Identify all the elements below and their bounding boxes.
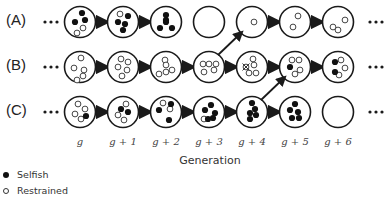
generation-label-g4: g + 4 xyxy=(238,136,266,147)
restrained-individual-icon xyxy=(246,70,252,76)
restrained-individual-icon xyxy=(121,117,127,123)
ellipsis-dot-icon xyxy=(368,65,371,68)
diagram-canvas: (A) (B) (C) g g + 1 g + 2 g + 3 g + 4 g … xyxy=(0,0,392,201)
axis-title: Generation xyxy=(179,154,240,167)
selfish-individual-icon xyxy=(287,107,293,113)
selfish-individual-icon xyxy=(72,19,78,25)
selfish-individual-icon xyxy=(83,113,89,119)
restrained-individual-icon xyxy=(201,69,207,75)
restrained-individual-icon xyxy=(78,55,84,61)
restrained-individual-icon xyxy=(251,19,257,25)
restrained-individual-icon xyxy=(292,71,298,77)
ellipsis-dot-icon xyxy=(374,65,377,68)
population-circle xyxy=(194,97,225,128)
restrained-individual-icon xyxy=(213,61,219,67)
selfish-individual-icon xyxy=(122,21,128,27)
generation-label-g: g xyxy=(77,136,83,147)
generation-label-g6: g + 6 xyxy=(324,136,352,147)
selfish-individual-icon xyxy=(332,59,338,65)
ellipsis-dot-icon xyxy=(374,20,377,23)
selfish-individual-icon xyxy=(118,106,124,112)
restrained-individual-icon xyxy=(115,112,121,118)
selfish-individual-icon xyxy=(168,101,174,107)
restrained-individual-icon xyxy=(71,65,77,71)
restrained-individual-icon xyxy=(295,13,301,19)
restrained-individual-icon xyxy=(125,59,131,65)
ellipsis-dot-icon xyxy=(380,110,383,113)
restrained-individual-icon xyxy=(80,25,86,31)
restrained-individual-icon xyxy=(117,11,123,17)
selfish-individual-icon xyxy=(163,17,169,23)
generation-label-g5: g + 5 xyxy=(281,136,309,147)
restrained-individual-icon xyxy=(211,67,217,73)
selfish-individual-icon xyxy=(332,69,338,75)
ellipsis-dot-icon xyxy=(55,20,58,23)
population-diagram xyxy=(0,0,392,201)
population-circle xyxy=(280,7,311,38)
restrained-individual-icon xyxy=(78,116,84,122)
restrained-individual-icon xyxy=(167,106,173,112)
ellipsis-dot-icon xyxy=(49,110,52,113)
restrained-individual-icon xyxy=(75,101,81,107)
legend-item-restrained: Restrained xyxy=(3,185,68,196)
restrained-individual-icon xyxy=(289,57,295,63)
restrained-individual-icon xyxy=(342,65,348,71)
selfish-individual-icon xyxy=(287,64,293,70)
selfish-individual-icon xyxy=(208,102,214,108)
selfish-individual-icon xyxy=(169,25,175,31)
selfish-dot-icon xyxy=(3,172,9,178)
legend-item-selfish: Selfish xyxy=(3,169,48,180)
restrained-individual-icon xyxy=(81,67,87,73)
restrained-individual-icon xyxy=(115,64,121,70)
generation-label-g3: g + 3 xyxy=(195,136,223,147)
selfish-individual-icon xyxy=(202,107,208,113)
restrained-individual-icon xyxy=(156,71,162,77)
ellipsis-dot-icon xyxy=(43,20,46,23)
ellipsis-dot-icon xyxy=(55,65,58,68)
population-circle xyxy=(323,97,354,128)
ellipsis-dot-icon xyxy=(55,110,58,113)
restrained-individual-icon xyxy=(123,101,129,107)
selfish-individual-icon xyxy=(247,110,253,116)
generation-label-g2: g + 2 xyxy=(152,136,180,147)
population-circle xyxy=(151,97,182,128)
restrained-individual-icon xyxy=(169,67,175,73)
restrained-individual-icon xyxy=(118,56,124,62)
ellipsis-dot-icon xyxy=(43,65,46,68)
restrained-individual-icon xyxy=(338,57,344,63)
selfish-individual-icon xyxy=(252,106,258,112)
migration-arrow-icon xyxy=(218,33,241,55)
population-circle xyxy=(194,7,225,38)
selfish-individual-icon xyxy=(157,25,163,31)
restrained-individual-icon xyxy=(80,73,86,79)
restrained-individual-icon xyxy=(342,17,348,23)
restrained-individual-icon xyxy=(335,27,341,33)
legend-label-selfish: Selfish xyxy=(17,169,48,180)
selfish-individual-icon xyxy=(296,115,302,121)
selfish-individual-icon xyxy=(115,19,121,25)
restrained-individual-icon xyxy=(72,111,78,117)
row-label-a: (A) xyxy=(6,11,26,28)
selfish-individual-icon xyxy=(253,112,259,118)
restrained-individual-icon xyxy=(251,62,257,68)
selfish-individual-icon xyxy=(79,10,85,16)
ellipsis-dot-icon xyxy=(380,20,383,23)
restrained-dot-icon xyxy=(3,188,9,194)
restrained-individual-icon xyxy=(250,56,256,62)
population-circle xyxy=(65,97,96,128)
migration-arrow-icon xyxy=(261,78,284,100)
selfish-individual-icon xyxy=(210,115,216,121)
selfish-individual-icon xyxy=(82,17,88,23)
restrained-individual-icon xyxy=(160,100,166,106)
generation-label-g1: g + 1 xyxy=(109,136,137,147)
ellipsis-dot-icon xyxy=(368,20,371,23)
restrained-individual-icon xyxy=(124,67,130,73)
ellipsis-dot-icon xyxy=(368,110,371,113)
restrained-individual-icon xyxy=(82,106,88,112)
selfish-individual-icon xyxy=(125,109,131,115)
restrained-individual-icon xyxy=(119,73,125,79)
restrained-individual-icon xyxy=(297,67,303,73)
restrained-individual-icon xyxy=(74,30,80,36)
restrained-individual-icon xyxy=(163,69,169,75)
ellipsis-dot-icon xyxy=(374,110,377,113)
